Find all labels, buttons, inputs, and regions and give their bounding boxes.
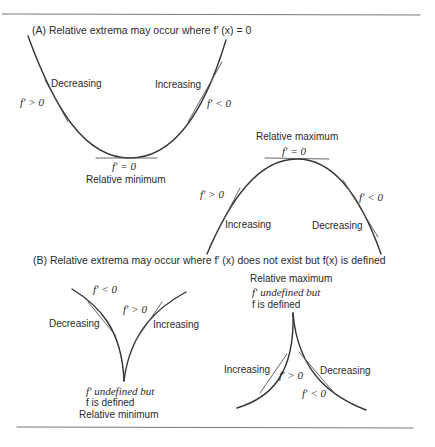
extrema-diagram bbox=[0, 0, 435, 447]
cusp-caption-line: f is defined bbox=[252, 299, 300, 311]
relative-maximum-caption: Relative maximum bbox=[250, 273, 332, 285]
cusp-caption-line: f′ undefined but bbox=[252, 286, 320, 299]
slope-label: f′ < 0 bbox=[359, 191, 383, 203]
cusp-minimum-curve bbox=[72, 289, 124, 381]
slope-label: f′ < 0 bbox=[302, 387, 326, 399]
decreasing-label: Decreasing bbox=[312, 220, 363, 232]
relative-minimum-caption: Relative minimum bbox=[86, 174, 165, 186]
tangent-top bbox=[265, 158, 329, 159]
decreasing-label: Decreasing bbox=[49, 318, 100, 330]
section-b-heading: (B) Relative extrema may occur where f′ … bbox=[33, 254, 386, 266]
decreasing-label: Decreasing bbox=[320, 365, 371, 377]
relative-minimum-caption: Relative minimum bbox=[79, 409, 158, 421]
f-is-defined: f is defined bbox=[252, 299, 300, 310]
relative-maximum-caption: Relative maximum bbox=[256, 131, 338, 143]
slope-label: f′ < 0 bbox=[207, 97, 231, 109]
increasing-label: Increasing bbox=[225, 219, 271, 231]
increasing-label: Increasing bbox=[224, 364, 270, 376]
decreasing-label: Decreasing bbox=[51, 78, 102, 90]
slope-label: f′ > 0 bbox=[279, 369, 303, 381]
f-prime-undefined: f′ undefined but bbox=[252, 286, 320, 298]
bottom-rule bbox=[17, 427, 413, 428]
f-is-defined: f is defined bbox=[86, 397, 134, 408]
slope-label: f′ < 0 bbox=[93, 283, 117, 295]
section-a-heading: (A) Relative extrema may occur where f′ … bbox=[32, 24, 251, 36]
cusp-caption-line: f is defined bbox=[86, 397, 134, 409]
slope-label: f′ = 0 bbox=[112, 160, 136, 172]
minimum-parabola bbox=[28, 36, 226, 158]
slope-label: f′ > 0 bbox=[20, 96, 44, 108]
slope-label: f′ = 0 bbox=[282, 145, 306, 157]
f-prime-undefined: f′ undefined but bbox=[86, 385, 154, 397]
top-rule bbox=[2, 14, 420, 15]
maximum-parabola bbox=[207, 159, 381, 254]
slope-label: f′ > 0 bbox=[200, 188, 224, 200]
tangent-right bbox=[188, 62, 222, 122]
increasing-label: Increasing bbox=[153, 319, 199, 331]
increasing-label: Increasing bbox=[155, 79, 201, 91]
cusp-maximum-curve bbox=[237, 313, 293, 408]
slope-label: f′ > 0 bbox=[123, 303, 147, 315]
